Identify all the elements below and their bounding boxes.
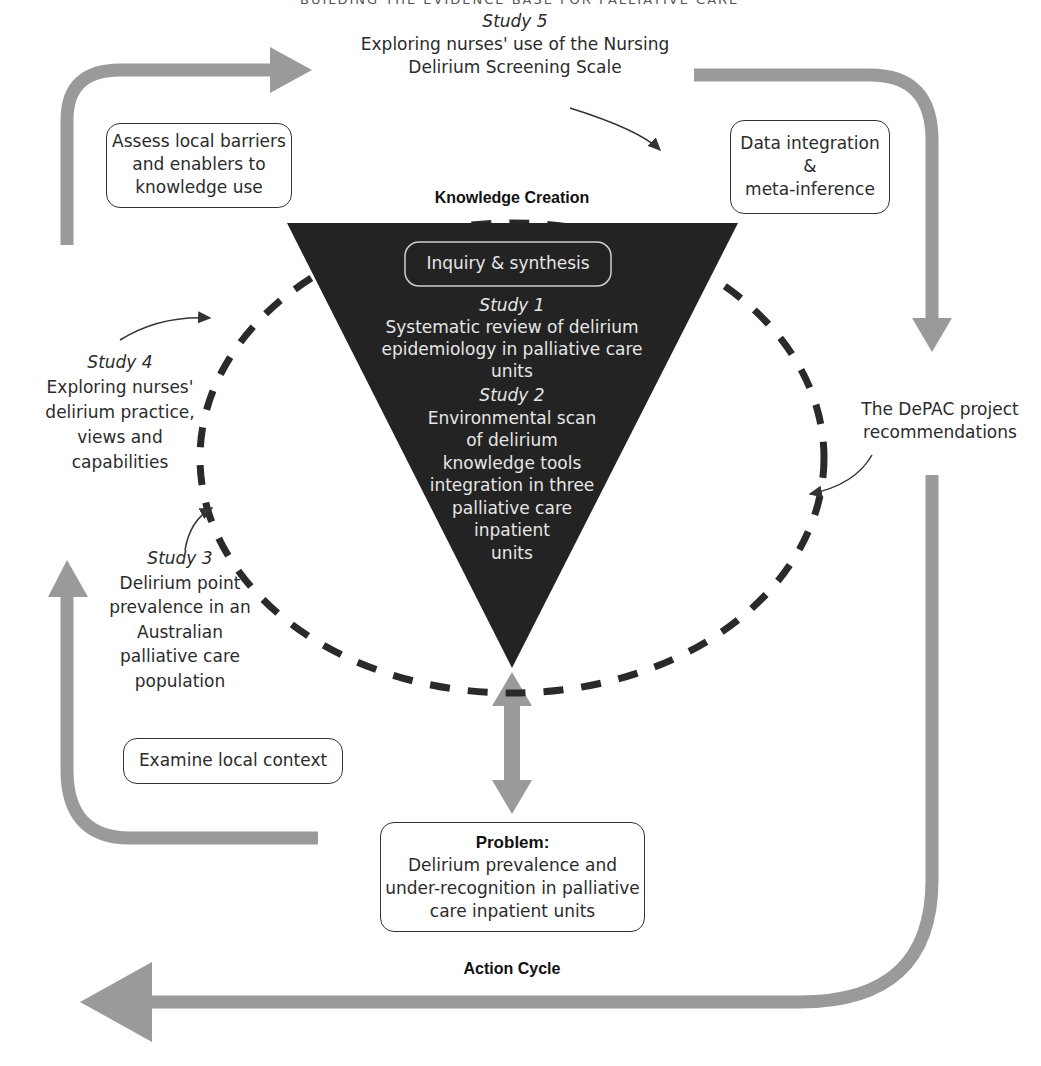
- study4-text: Study 4 Exploring nurses' delirium pract…: [40, 350, 200, 475]
- study4-label: Study 4: [40, 350, 200, 375]
- study4-line: delirium practice,: [40, 400, 200, 425]
- problem-line: under-recognition in palliative: [381, 877, 644, 900]
- examine-box: Examine local context: [123, 738, 343, 784]
- study5-label: Study 5: [315, 10, 715, 33]
- study2-line: inpatient: [412, 519, 612, 542]
- assess-line: Assess local barriers: [107, 130, 291, 153]
- data-integration-line: Data integration: [731, 132, 889, 155]
- assess-line: and enablers to: [107, 153, 291, 176]
- study2-line: of delirium: [412, 429, 612, 452]
- study2-label: Study 2: [412, 384, 612, 407]
- arrowhead-right-icon: [270, 47, 312, 93]
- problem-line: care inpatient units: [381, 900, 644, 923]
- study3-line: palliative care: [100, 644, 260, 669]
- study4-line: views and: [40, 425, 200, 450]
- study3-line: population: [100, 669, 260, 694]
- pointer-recommendations-icon: [810, 455, 872, 494]
- problem-line: Delirium prevalence and: [381, 854, 644, 877]
- inquiry-synthesis-label: Inquiry & synthesis: [405, 252, 611, 275]
- study5-text: Study 5 Exploring nurses' use of the Nur…: [315, 10, 715, 79]
- assess-box: Assess local barriers and enablers to kn…: [106, 123, 292, 208]
- study3-line: Delirium point: [100, 571, 260, 596]
- recommendations-text: The DePAC project recommendations: [845, 398, 1035, 444]
- study1-text: Study 1 Systematic review of delirium ep…: [362, 294, 662, 382]
- study1-line: units: [362, 360, 662, 382]
- study3-label: Study 3: [100, 546, 260, 571]
- study2-line: integration in three: [412, 474, 612, 497]
- recommendations-line: recommendations: [845, 421, 1035, 444]
- study2-line: knowledge tools: [412, 452, 612, 475]
- arrowhead-up-icon: [48, 560, 88, 597]
- study1-line: Systematic review of delirium: [362, 316, 662, 338]
- data-integration-line: meta-inference: [731, 178, 889, 201]
- arrowhead-down-icon: [912, 318, 952, 352]
- problem-box: Problem: Delirium prevalence and under-r…: [380, 822, 645, 932]
- study2-text: Study 2 Environmental scan of delirium k…: [412, 384, 612, 564]
- study3-text: Study 3 Delirium point prevalence in an …: [100, 546, 260, 693]
- knowledge-creation-title: Knowledge Creation: [387, 186, 637, 209]
- data-integration-box: Data integration & meta-inference: [730, 120, 890, 214]
- study2-line: Environmental scan: [412, 407, 612, 430]
- recommendations-line: The DePAC project: [845, 398, 1035, 421]
- study2-line: palliative care: [412, 497, 612, 520]
- study5-line: Exploring nurses' use of the Nursing: [315, 33, 715, 56]
- study5-line: Delirium Screening Scale: [315, 56, 715, 79]
- problem-title: Problem:: [381, 831, 644, 854]
- pointer-study5-icon: [570, 108, 660, 150]
- assess-line: knowledge use: [107, 176, 291, 199]
- study1-line: epidemiology in palliative care: [362, 338, 662, 360]
- study3-line: Australian: [100, 620, 260, 645]
- examine-label: Examine local context: [124, 749, 342, 772]
- study1-label: Study 1: [362, 294, 662, 316]
- study4-line: capabilities: [40, 450, 200, 475]
- pointer-study4-icon: [120, 318, 210, 340]
- action-cycle-title: Action Cycle: [412, 957, 612, 980]
- study4-line: Exploring nurses': [40, 375, 200, 400]
- data-integration-line: &: [731, 155, 889, 178]
- arrowhead-left-icon: [80, 962, 152, 1042]
- study2-line: units: [412, 542, 612, 565]
- study3-line: prevalence in an: [100, 595, 260, 620]
